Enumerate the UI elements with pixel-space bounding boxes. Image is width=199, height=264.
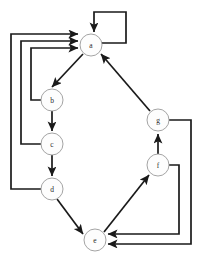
node-c[interactable]: c: [41, 133, 63, 155]
edge-d-to-e: [57, 199, 83, 234]
edge-f-to-e: [108, 165, 179, 234]
node-b-label: b: [50, 96, 54, 105]
graph-canvas: a b c d e f g: [0, 0, 199, 264]
edge-a-to-b: [52, 54, 83, 87]
edge-e-to-f: [104, 175, 149, 232]
node-f[interactable]: f: [147, 154, 169, 176]
node-b[interactable]: b: [41, 89, 63, 111]
node-g-label: g: [156, 116, 160, 125]
node-layer: a b c d e f g: [41, 34, 169, 251]
node-d[interactable]: d: [41, 178, 63, 200]
edge-g-to-a: [101, 54, 150, 111]
node-g[interactable]: g: [147, 109, 169, 131]
node-d-label: d: [50, 185, 54, 194]
node-e[interactable]: e: [84, 229, 106, 251]
node-a[interactable]: a: [80, 34, 102, 56]
